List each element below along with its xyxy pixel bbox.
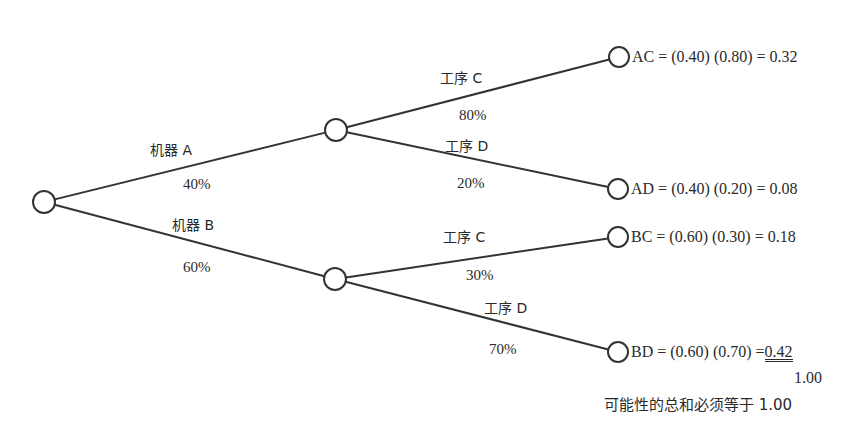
branch-prob-machine-a: 40% [183,175,211,193]
branch-prob-a-process-c: 80% [459,106,487,124]
outcome-ad: AD = (0.40) (0.20) = 0.08 [631,180,797,198]
tree-nodes [33,47,629,362]
branch-prob-b-process-c: 30% [466,266,494,284]
branch-label-a-process-d: 工序 D [445,137,488,155]
outcome-bd-formula: BD = (0.60) (0.70) = [631,343,765,360]
outcome-bd-value: 0.42 [765,344,793,362]
branch-prob-b-process-d: 70% [489,340,517,358]
edge-B-BD [346,282,609,350]
branch-label-machine-a: 机器 A [150,141,192,159]
probability-sum-note: 可能性的总和必须等于 1.00 [604,396,792,414]
branch-label-machine-b: 机器 B [172,216,214,234]
node-AD [608,179,628,199]
node-AC [609,47,629,67]
outcome-bd: BD = (0.60) (0.70) =0.42 [631,343,793,362]
outcome-bc: BC = (0.60) (0.30) = 0.18 [631,228,796,246]
branch-prob-a-process-d: 20% [457,174,485,192]
node-BC [608,227,628,247]
outcome-ac: AC = (0.40) (0.80) = 0.32 [632,48,798,66]
node-root [33,191,55,213]
branch-label-b-process-d: 工序 D [484,299,527,317]
branch-prob-machine-b: 60% [183,258,211,276]
node-B [324,268,346,290]
node-A [325,119,347,141]
branch-label-a-process-c: 工序 C [440,69,482,87]
probability-total: 1.00 [794,369,822,387]
node-BD [608,342,628,362]
branch-label-b-process-c: 工序 C [443,228,485,246]
